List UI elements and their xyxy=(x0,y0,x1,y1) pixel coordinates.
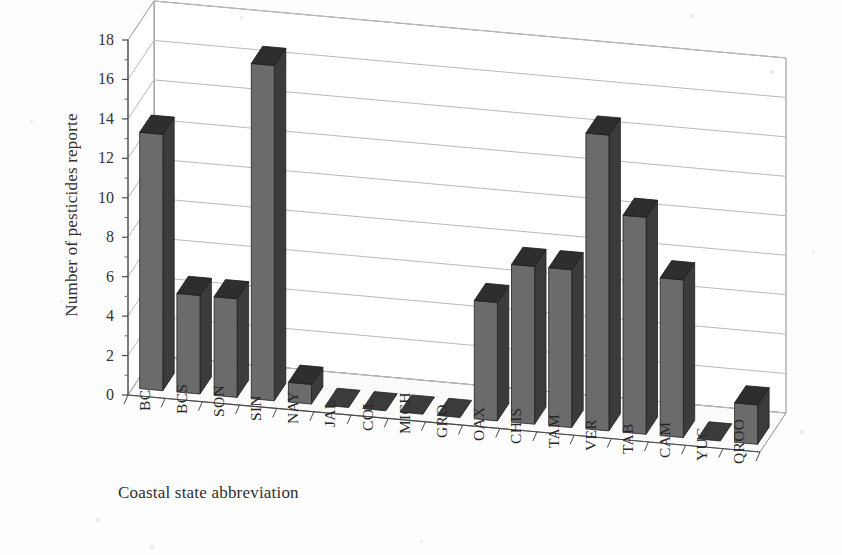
y-tick-label: 16 xyxy=(80,71,114,87)
x-tick-label-oax: OAX xyxy=(470,406,488,440)
bar-bc xyxy=(140,115,175,391)
scan-speck xyxy=(150,545,154,549)
x-tick-label-yuc: YUC xyxy=(693,427,711,461)
plot-area xyxy=(0,0,842,555)
y-tick-label: 6 xyxy=(80,269,114,285)
x-tick-label-qroo: QROO xyxy=(730,419,748,464)
chart-page: Number of pesticides reporte Coastal sta… xyxy=(0,0,842,555)
scan-speck xyxy=(30,120,33,123)
bar-tam xyxy=(549,251,584,428)
y-tick-label: 10 xyxy=(80,190,114,206)
bar-oax xyxy=(474,283,509,421)
x-tick xyxy=(496,429,500,438)
chart-svg xyxy=(0,0,842,555)
x-tick-label-col: COL xyxy=(359,399,377,431)
x-tick-label-son: SON xyxy=(210,385,228,417)
y-tick-label: 0 xyxy=(80,387,114,403)
bar-front-face xyxy=(549,268,572,428)
scan-speck xyxy=(812,250,815,253)
scan-speck xyxy=(690,14,694,18)
bar-front-face xyxy=(251,63,274,400)
bar-side-face xyxy=(646,200,657,434)
bar-front-face xyxy=(140,132,163,391)
bar-side-face xyxy=(237,282,249,398)
x-tick-label-mich: MICH xyxy=(396,392,414,434)
x-tick-label-tam: TAM xyxy=(545,413,563,447)
bar-side-face xyxy=(200,278,211,394)
x-tick-label-bc: BC xyxy=(136,389,154,410)
bar-tab xyxy=(623,198,658,434)
x-tick xyxy=(459,425,463,434)
bar-front-face xyxy=(623,215,646,434)
x-tick xyxy=(310,412,314,421)
x-tick xyxy=(756,452,760,461)
bar-sin xyxy=(251,46,285,401)
bar-front-face xyxy=(586,133,609,431)
bar-bcs xyxy=(177,276,212,394)
x-tick xyxy=(533,432,537,441)
y-tick-label: 12 xyxy=(80,150,114,166)
bar-side-face xyxy=(274,48,286,401)
scan-speck xyxy=(96,518,100,522)
bar-front-face xyxy=(214,297,237,398)
bar-side-face xyxy=(163,117,174,391)
x-tick xyxy=(421,422,425,431)
x-tick-label-gro: GRO xyxy=(433,404,451,438)
x-tick xyxy=(161,398,165,407)
bar-son xyxy=(214,280,249,398)
scan-speck xyxy=(800,430,804,434)
y-tick-label: 2 xyxy=(80,348,114,364)
bar-front-face xyxy=(177,293,200,394)
bar-ver xyxy=(586,116,621,431)
x-tick xyxy=(607,439,611,448)
y-tick-label: 8 xyxy=(80,229,114,245)
y-tick-label: 14 xyxy=(80,111,114,127)
x-tick xyxy=(570,435,574,444)
y-tick-label: 4 xyxy=(80,308,114,324)
scan-speck xyxy=(770,70,774,74)
x-tick xyxy=(719,449,723,458)
scan-speck xyxy=(60,300,63,303)
x-tick xyxy=(682,445,686,454)
bar-side-face xyxy=(609,118,621,431)
bar-cam xyxy=(660,261,695,438)
x-tick-label-bcs: BCS xyxy=(173,384,191,414)
bar-chis xyxy=(512,247,547,424)
bar-side-face xyxy=(683,263,694,438)
x-tick-label-jal: JAL xyxy=(321,400,339,428)
bar-side-face xyxy=(572,253,584,428)
x-tick-label-sin: SIN xyxy=(247,395,265,421)
bar-front-face xyxy=(660,278,683,438)
scan-speck xyxy=(420,540,423,543)
bar-front-face xyxy=(512,264,535,424)
scan-speck xyxy=(240,16,243,19)
x-tick-label-tab: TAB xyxy=(619,424,637,455)
bar-side-face xyxy=(535,249,546,424)
x-tick xyxy=(236,405,240,414)
x-tick-label-cam: CAM xyxy=(656,421,674,457)
x-tick-label-chis: CHIS xyxy=(507,408,525,445)
x-tick xyxy=(198,402,202,411)
x-tick xyxy=(644,442,648,451)
x-tick xyxy=(347,415,351,424)
y-tick-label: 18 xyxy=(80,32,114,48)
x-tick xyxy=(384,418,388,427)
x-tick xyxy=(273,408,277,417)
x-tick-label-nay: NAY xyxy=(284,391,302,424)
x-tick-label-ver: VER xyxy=(582,419,600,451)
x-tick xyxy=(124,395,128,404)
bar-side-face xyxy=(497,285,508,421)
bar-front-face xyxy=(474,301,497,421)
